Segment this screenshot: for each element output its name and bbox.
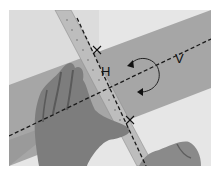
label-v: V <box>175 51 184 66</box>
label-h: H <box>101 64 110 79</box>
photo: H V <box>9 10 211 166</box>
